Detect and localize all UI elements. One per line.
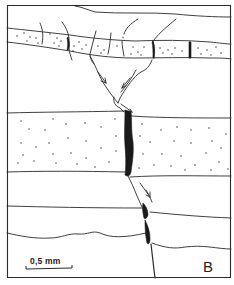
fracture-mid xyxy=(128,176,142,207)
thick-bed-bottom-right xyxy=(130,176,231,177)
wavy-line-left xyxy=(7,232,146,238)
vein-main xyxy=(125,110,134,176)
fracture-tail xyxy=(151,244,155,278)
thick-bed-top-left xyxy=(7,111,125,113)
lower-line-left xyxy=(7,206,143,208)
funnel-branch-inner xyxy=(121,70,136,92)
crack-6-thick xyxy=(152,41,155,58)
funnel-branch-right xyxy=(118,60,152,103)
thick-bed-bottom-left xyxy=(7,171,125,172)
vein-lower-1 xyxy=(143,203,148,219)
vein-lower-2 xyxy=(145,220,150,244)
crack-6 xyxy=(153,19,176,58)
upper-bed-bottom xyxy=(7,42,231,59)
crack-4 xyxy=(108,33,111,54)
arrow-side xyxy=(146,190,152,202)
crack-2 xyxy=(62,22,72,60)
crack-1 xyxy=(40,23,43,44)
scale-bar-line xyxy=(26,268,72,269)
scale-bar-label: 0,5 mm xyxy=(30,256,61,266)
crack-3 xyxy=(90,31,96,64)
lower-line-right xyxy=(150,212,231,218)
arrow-left xyxy=(98,72,106,83)
thick-bed-top-right xyxy=(131,116,231,118)
diagram-figure xyxy=(0,0,234,285)
crack-5 xyxy=(122,19,138,56)
crack-7-thick xyxy=(189,42,191,58)
wavy-line-right xyxy=(152,243,231,249)
top-boundary-line xyxy=(75,6,231,17)
stipple-dots xyxy=(16,32,228,170)
upper-bed-top xyxy=(7,28,231,44)
arrow-right xyxy=(122,78,130,88)
panel-label: B xyxy=(203,258,213,275)
